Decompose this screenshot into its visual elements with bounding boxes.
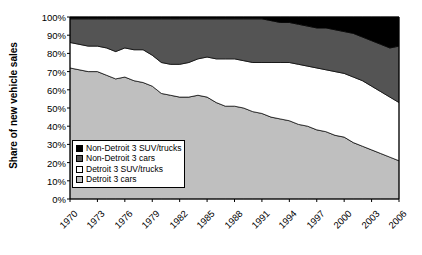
legend-item-label: Non-Detroit 3 cars — [86, 154, 155, 163]
legend-item-label: Detroit 3 cars — [86, 175, 137, 184]
y-tick-label: 20% — [47, 157, 66, 168]
y-tick-label: 80% — [47, 48, 66, 59]
legend-item-label: Non-Detroit 3 SUV/trucks — [86, 144, 181, 153]
legend-item-label: Detroit 3 SUV/trucks — [86, 165, 163, 174]
y-tick-label: 10% — [47, 175, 66, 186]
x-axis-tick-labels: 1970197319761979198219851988199119941997… — [0, 203, 422, 255]
y-tick-label: 100% — [42, 12, 66, 23]
legend-item[interactable]: Non-Detroit 3 cars — [76, 154, 181, 165]
y-tick-label: 50% — [47, 103, 66, 114]
y-tick-label: 70% — [47, 66, 66, 77]
y-tick-label: 30% — [47, 139, 66, 150]
legend-swatch-icon — [76, 176, 83, 183]
stacked-area-chart: Share of new vehicle sales 100%90%80%70%… — [0, 0, 422, 255]
y-tick-label: 60% — [47, 84, 66, 95]
legend-item[interactable]: Detroit 3 SUV/trucks — [76, 164, 181, 175]
chart-legend: Non-Detroit 3 SUV/trucksNon-Detroit 3 ca… — [72, 140, 185, 188]
y-axis-title-wrapper: Share of new vehicle sales — [2, 0, 24, 210]
legend-swatch-icon — [76, 166, 83, 173]
legend-swatch-icon — [76, 155, 83, 162]
legend-swatch-icon — [76, 145, 83, 152]
legend-item[interactable]: Detroit 3 cars — [76, 175, 181, 186]
legend-item[interactable]: Non-Detroit 3 SUV/trucks — [76, 143, 181, 154]
y-axis-title: Share of new vehicle sales — [8, 42, 19, 169]
y-tick-label: 40% — [47, 121, 66, 132]
y-tick-label: 90% — [47, 30, 66, 41]
